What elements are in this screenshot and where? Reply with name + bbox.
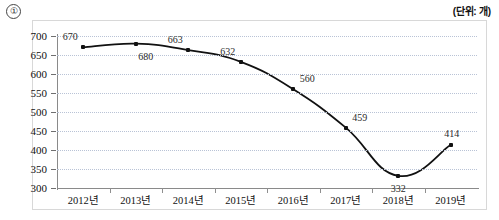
y-axis-label: 650 bbox=[31, 49, 48, 61]
x-axis-tick bbox=[162, 188, 163, 193]
gridline bbox=[57, 36, 477, 37]
data-point-label: 560 bbox=[300, 73, 315, 84]
x-axis-label: 2014년 bbox=[173, 192, 204, 207]
y-axis-tick bbox=[51, 36, 56, 37]
data-point[interactable] bbox=[239, 60, 243, 64]
x-axis-label: 2015년 bbox=[225, 192, 256, 207]
series-line bbox=[83, 44, 451, 177]
y-axis-tick bbox=[51, 93, 56, 94]
y-axis-label: 550 bbox=[31, 87, 48, 99]
data-point[interactable] bbox=[291, 87, 295, 91]
x-axis-tick bbox=[110, 188, 111, 193]
x-axis-line bbox=[57, 188, 479, 189]
data-point[interactable] bbox=[81, 45, 85, 49]
y-axis-label: 400 bbox=[31, 144, 48, 156]
data-point-label: 680 bbox=[138, 50, 153, 61]
data-point[interactable] bbox=[344, 126, 348, 130]
gridline bbox=[57, 55, 477, 56]
data-point-label: 663 bbox=[168, 34, 183, 45]
y-axis-label: 350 bbox=[31, 163, 48, 175]
y-axis-label: 600 bbox=[31, 68, 48, 80]
gridline bbox=[57, 169, 477, 170]
y-axis-tick bbox=[51, 131, 56, 132]
data-point-label: 670 bbox=[63, 31, 78, 42]
x-axis-label: 2016년 bbox=[278, 192, 309, 207]
x-axis-label: 2012년 bbox=[68, 192, 99, 207]
y-axis-label: 300 bbox=[31, 182, 48, 194]
chart-page: ① (단위: 개) 700650600550500450400350300670… bbox=[0, 0, 499, 220]
x-axis-tick bbox=[320, 188, 321, 193]
y-axis-tick bbox=[51, 169, 56, 170]
y-axis-label: 700 bbox=[31, 30, 48, 42]
y-axis-tick bbox=[51, 188, 56, 189]
y-axis-tick bbox=[51, 112, 56, 113]
data-point-label: 459 bbox=[352, 111, 367, 122]
x-axis-label: 2018년 bbox=[383, 192, 414, 207]
y-axis-label: 500 bbox=[31, 106, 48, 118]
plot-area: 7006506005505004504003503006706806636325… bbox=[57, 36, 477, 188]
data-point-label: 632 bbox=[220, 45, 235, 56]
y-axis-tick bbox=[51, 74, 56, 75]
x-axis-label: 2019년 bbox=[435, 192, 466, 207]
y-axis-tick bbox=[51, 150, 56, 151]
x-axis-tick bbox=[267, 188, 268, 193]
x-axis-label: 2017년 bbox=[330, 192, 361, 207]
gridline bbox=[57, 93, 477, 94]
data-point[interactable] bbox=[134, 42, 138, 46]
gridline bbox=[57, 131, 477, 132]
x-axis-tick bbox=[425, 188, 426, 193]
gridline bbox=[57, 112, 477, 113]
x-axis-tick bbox=[372, 188, 373, 193]
data-point[interactable] bbox=[449, 143, 453, 147]
y-axis-label: 450 bbox=[31, 125, 48, 137]
y-axis-tick bbox=[51, 55, 56, 56]
x-axis-tick bbox=[215, 188, 216, 193]
unit-label: (단위: 개) bbox=[453, 3, 491, 18]
gridline bbox=[57, 150, 477, 151]
data-point-label: 414 bbox=[444, 127, 459, 138]
x-axis-label: 2013년 bbox=[120, 192, 151, 207]
data-point[interactable] bbox=[186, 48, 190, 52]
item-number-marker: ① bbox=[6, 4, 21, 19]
data-point[interactable] bbox=[396, 174, 400, 178]
gridline bbox=[57, 74, 477, 75]
